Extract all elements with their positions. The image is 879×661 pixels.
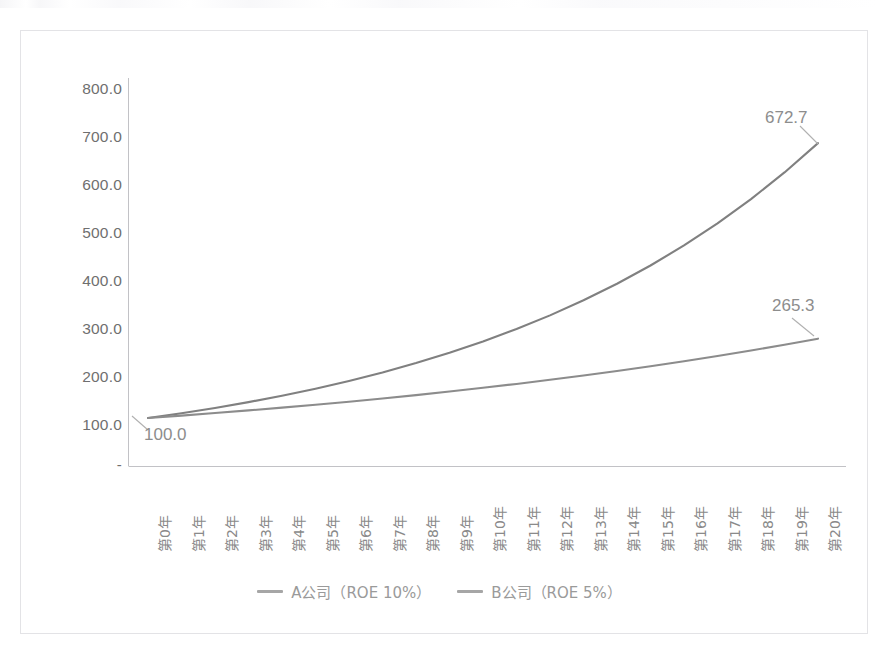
x-tick-label: 第13年 <box>590 506 610 552</box>
x-tick-label: 第18年 <box>757 506 777 552</box>
leader-line-b-end <box>792 318 814 336</box>
x-tick-label: 第19年 <box>791 506 811 552</box>
x-tick-label: 第11年 <box>523 506 543 552</box>
x-tick-label: 第7年 <box>389 515 409 552</box>
legend-line-icon <box>457 590 483 593</box>
x-tick-label: 第17年 <box>724 506 744 552</box>
leader-line-a-end <box>800 126 818 144</box>
x-tick-label: 第9年 <box>456 515 476 552</box>
series-line-b <box>148 339 818 418</box>
x-tick-label: 第6年 <box>355 515 375 552</box>
legend-item-b[interactable]: B公司（ROE 5%） <box>457 581 622 602</box>
x-tick-label: 第16年 <box>690 506 710 552</box>
series-line-a <box>148 143 818 418</box>
data-label-series-a-end: 672.7 <box>765 108 808 128</box>
x-tick-label: 第2年 <box>221 515 241 552</box>
x-tick-label: 第12年 <box>556 506 576 552</box>
x-tick-label: 第8年 <box>422 515 442 552</box>
legend-item-a[interactable]: A公司（ROE 10%） <box>257 581 431 602</box>
x-tick-label: 第10年 <box>489 506 509 552</box>
x-tick-label: 第20年 <box>824 506 844 552</box>
x-tick-label: 第14年 <box>623 506 643 552</box>
plot-area <box>0 0 879 661</box>
chart-legend: A公司（ROE 10%） B公司（ROE 5%） <box>0 581 879 602</box>
x-tick-label: 第4年 <box>288 515 308 552</box>
x-tick-label: 第5年 <box>322 515 342 552</box>
x-tick-label: 第15年 <box>657 506 677 552</box>
legend-line-icon <box>257 590 283 593</box>
legend-label-a: A公司（ROE 10%） <box>291 581 431 602</box>
x-tick-label: 第3年 <box>255 515 275 552</box>
x-tick-label: 第1年 <box>188 515 208 552</box>
data-label-start: 100.0 <box>144 425 187 445</box>
legend-label-b: B公司（ROE 5%） <box>491 581 622 602</box>
data-label-series-b-end: 265.3 <box>772 296 815 316</box>
x-tick-label: 第0年 <box>154 515 174 552</box>
